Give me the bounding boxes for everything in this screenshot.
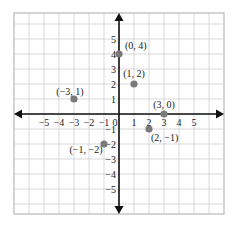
x-tick-label: −2 <box>84 117 95 128</box>
x-tick-label: 4 <box>177 117 182 128</box>
point-label: (1, 2) <box>123 68 145 80</box>
x-tick-label: 3 <box>162 117 167 128</box>
point-label: (2, −1) <box>151 132 178 144</box>
x-tick-label: −5 <box>39 117 50 128</box>
point-label: (0, 4) <box>125 40 147 52</box>
point-label: (−3, 1) <box>56 86 83 98</box>
y-tick-label: −3 <box>105 154 116 165</box>
y-tick-label: −4 <box>105 169 116 180</box>
y-tick-label: 3 <box>111 64 116 75</box>
y-tick-label: 5 <box>111 34 116 45</box>
x-tick-label: −4 <box>54 117 65 128</box>
x-tick-label: 1 <box>132 117 137 128</box>
coordinate-plane: −5−4−3−2−101234554321−1−2−3−4−5 (0, 4)(1… <box>0 0 237 226</box>
x-tick-label: −3 <box>69 117 80 128</box>
y-tick-label: −5 <box>105 184 116 195</box>
point-label: (3, 0) <box>153 99 175 111</box>
y-tick-label: −1 <box>105 124 116 135</box>
y-tick-label: 2 <box>111 79 116 90</box>
data-point <box>160 110 167 117</box>
y-tick-label: 4 <box>111 49 116 60</box>
data-point <box>130 80 137 87</box>
point-label: (−1, −2) <box>70 144 103 156</box>
y-tick-label: 1 <box>111 94 116 105</box>
data-point <box>115 50 122 57</box>
x-tick-label: 5 <box>192 117 197 128</box>
